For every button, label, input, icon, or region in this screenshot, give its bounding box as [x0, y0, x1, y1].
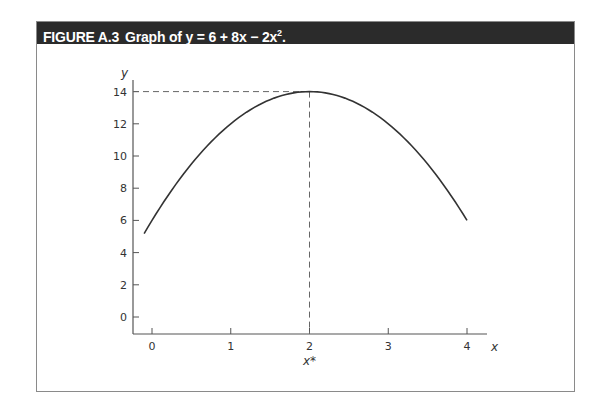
x-star-label: x* [302, 354, 316, 368]
parabola-curve [144, 92, 467, 234]
x-axis-label: x [490, 340, 499, 354]
y-tick-label: 4 [120, 247, 127, 260]
x-tick-label: 4 [464, 340, 471, 353]
y-tick-label: 8 [120, 182, 127, 195]
y-tick-label: 2 [120, 279, 127, 292]
y-tick-label: 0 [120, 311, 127, 324]
y-tick-label: 12 [113, 118, 127, 131]
y-axis-label: y [120, 66, 129, 80]
y-tick-label: 14 [113, 86, 127, 99]
x-tick-label: 1 [227, 340, 234, 353]
y-tick-label: 10 [113, 150, 127, 163]
x-tick-label: 3 [385, 340, 392, 353]
chart-svg: 0246810121401234yxx* [0, 0, 600, 407]
x-tick-label: 0 [149, 340, 156, 353]
x-tick-label: 2 [306, 340, 313, 353]
y-tick-label: 6 [120, 214, 127, 227]
